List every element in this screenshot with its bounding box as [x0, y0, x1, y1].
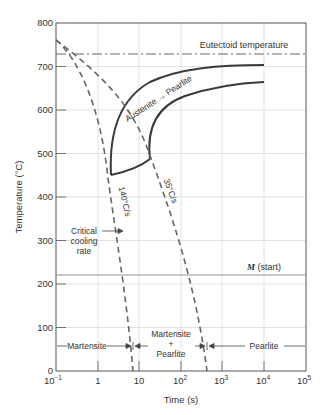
x-tick-100000: 105	[297, 374, 312, 386]
x-axis-label: Time (s)	[164, 394, 198, 405]
critical-cooling-rate-label: Critical cooling rate	[71, 226, 98, 256]
x-tick-100: 102	[173, 374, 188, 386]
y-axis-label: Temperature (°C)	[13, 161, 24, 234]
x-tick-0.1: 10−1	[44, 374, 62, 386]
svg-text:+: +	[169, 339, 174, 349]
y-tick-500: 500	[37, 148, 53, 159]
x-tick-10000: 104	[256, 374, 271, 386]
y-tick-800: 800	[37, 17, 53, 28]
y-tick-400: 400	[37, 191, 53, 202]
x-tick-labels: 10−1 1 10 102 103 104 105	[44, 374, 311, 386]
svg-text:cooling: cooling	[71, 236, 98, 246]
y-tick-labels: 0 100 200 300 400 500 600 700 800	[37, 17, 53, 376]
x-tick-1: 1	[95, 375, 100, 386]
martensite-region-label: Martensite	[67, 341, 107, 351]
svg-text:Pearlite: Pearlite	[157, 349, 186, 359]
grid	[56, 23, 306, 371]
pearlite-region-label: Pearlite	[250, 341, 279, 351]
rate-35-label: 35°C/s	[162, 177, 180, 204]
svg-text:rate: rate	[77, 246, 92, 256]
y-tick-300: 300	[37, 235, 53, 246]
y-tick-600: 600	[37, 104, 53, 115]
nose-connector-curve	[111, 159, 150, 175]
rate-140-label: 140°C/s	[117, 185, 134, 217]
svg-text:Martensite: Martensite	[151, 329, 191, 339]
m-start-label: M (start)	[246, 262, 281, 272]
y-tick-100: 100	[37, 322, 53, 333]
critical-arrow	[102, 229, 123, 234]
x-tick-1000: 103	[214, 374, 229, 386]
y-tick-700: 700	[37, 61, 53, 72]
svg-text:Critical: Critical	[71, 226, 97, 236]
cooling-transformation-chart: 0 100 200 300 400 500 600 700 800 10−1 1…	[0, 0, 328, 415]
martensite-pearlite-region-label: Martensite + Pearlite	[151, 329, 191, 359]
x-tick-10: 10	[134, 375, 145, 386]
y-tick-200: 200	[37, 278, 53, 289]
eutectoid-label: Eutectoid temperature	[200, 40, 289, 50]
